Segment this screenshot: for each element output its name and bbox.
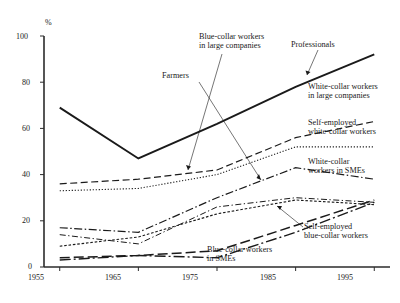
y-axis-unit-label: % <box>45 18 52 27</box>
y-tick-label-100: 100 <box>16 32 28 41</box>
y-tick-label-0: 0 <box>28 262 32 271</box>
leader-self-employed-blue <box>277 206 303 227</box>
leader-professionals-head <box>306 71 311 76</box>
ann-blue-collar-large: Blue-collar workers in large companies <box>199 32 264 51</box>
ann-white-collar-large: White-collar workers in large companies <box>308 82 378 101</box>
x-tick-label-1955: 1955 <box>28 273 44 282</box>
x-tick-label-1985: 1985 <box>260 273 276 282</box>
chart-container: % 100 80 60 40 20 0 1955 1965 1975 1985 … <box>0 0 400 303</box>
ann-white-collar-smes: White-collar workers in SMEs <box>308 157 365 176</box>
y-tick-label-20: 20 <box>22 216 30 225</box>
ann-self-employed-blue: Self-employed blue-collar workers <box>304 222 368 241</box>
leader-farmers-head <box>257 174 262 180</box>
ann-blue-collar-smes: Blue-collar workers in SMEs <box>207 245 272 264</box>
ann-self-employed-white: Self-employed white-collar workers <box>308 118 376 137</box>
leader-blue-collar-large-head <box>186 165 191 170</box>
ann-professionals: Professionals <box>291 40 335 49</box>
ann-farmers: Farmers <box>162 71 189 80</box>
y-tick-label-40: 40 <box>22 170 30 179</box>
x-tick-label-1965: 1965 <box>105 273 121 282</box>
leader-blue-collar-large <box>188 54 222 170</box>
y-tick-label-60: 60 <box>22 124 30 133</box>
x-tick-label-1975: 1975 <box>182 273 198 282</box>
leader-farmers <box>199 82 261 180</box>
y-tick-label-80: 80 <box>22 78 30 87</box>
x-tick-label-1995: 1995 <box>337 273 353 282</box>
leader-professionals <box>307 50 318 75</box>
